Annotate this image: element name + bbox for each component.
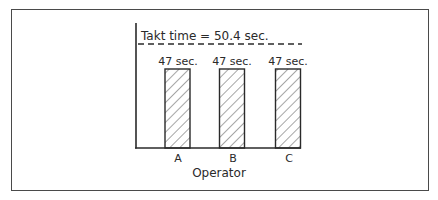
value-label-b: 47 sec. (212, 55, 252, 68)
x-axis-title: Operator (192, 166, 246, 180)
takt-time-label: Takt time = 50.4 sec. (140, 29, 269, 43)
category-label-b: B (229, 152, 237, 165)
category-label-a: A (174, 152, 182, 165)
takt-time-chart: Takt time = 50.4 sec. 47 sec. 47 sec. 47… (0, 0, 438, 200)
category-label-c: C (285, 152, 293, 165)
bar-b (220, 69, 245, 148)
value-label-c: 47 sec. (268, 55, 308, 68)
value-label-a: 47 sec. (158, 55, 198, 68)
bar-a (165, 69, 190, 148)
bar-c (276, 69, 301, 148)
